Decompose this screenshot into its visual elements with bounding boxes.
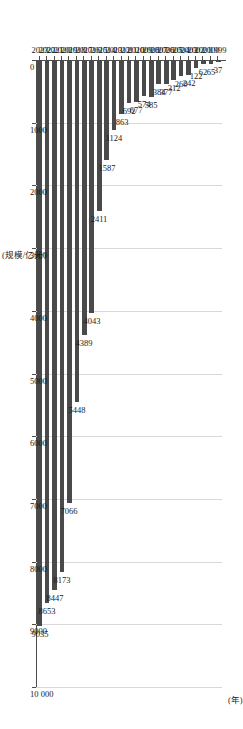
y-axis-tick [61, 56, 62, 60]
bar [60, 60, 65, 572]
y-axis-tick [195, 56, 196, 60]
y-axis-tick [210, 56, 211, 60]
chart-figure: 010002000300040005000600070008000900010 … [0, 0, 234, 729]
y-axis-tick [150, 56, 151, 60]
y-axis-tick [83, 56, 84, 60]
y-axis-tick [91, 56, 92, 60]
bar [179, 60, 184, 76]
y-axis-tick [188, 56, 189, 60]
bar [75, 60, 80, 402]
x-axis-tick-label: 5000 [30, 377, 47, 386]
bar-value-label: 65 [207, 68, 216, 77]
bar-value-label: 2411 [91, 215, 108, 224]
bar-value-label: 384 [152, 88, 165, 97]
bar [201, 60, 206, 64]
y-axis-tick [46, 56, 47, 60]
gridline [36, 687, 222, 688]
bar-value-label: 1587 [98, 164, 115, 173]
bar [171, 60, 176, 80]
plot-area [36, 60, 222, 687]
bar [67, 60, 72, 503]
y-axis-tick [121, 56, 122, 60]
x-axis-tick-label: 7000 [30, 502, 47, 511]
x-axis-tick [32, 60, 36, 61]
bar [82, 60, 87, 335]
x-axis-tick-label: 10 000 [30, 690, 53, 699]
x-axis-tick-label: 8000 [30, 565, 47, 574]
bar-value-label: 9035 [31, 630, 48, 639]
bar-value-label: 8653 [39, 607, 56, 616]
y-axis-tick [202, 56, 203, 60]
y-axis-tick [180, 56, 181, 60]
gridline [36, 624, 222, 625]
x-axis-tick-label: 6000 [30, 439, 47, 448]
x-axis-tick-label: 1000 [30, 126, 47, 135]
x-axis-tick [32, 687, 36, 688]
bar [104, 60, 109, 160]
y-axis-tick [128, 56, 129, 60]
bar [127, 60, 132, 103]
x-axis-tick [32, 562, 36, 563]
x-axis-title: (规模/亿元) [2, 248, 46, 260]
y-axis-tick [39, 56, 40, 60]
bar [156, 60, 161, 84]
bar [90, 60, 95, 313]
bar [52, 60, 57, 590]
y-axis-tick [165, 56, 166, 60]
x-axis-tick [32, 123, 36, 124]
bar-chart: 010002000300040005000600070008000900010 … [0, 0, 234, 729]
x-axis-tick-label: 2000 [30, 188, 47, 197]
y-axis-tick [76, 56, 77, 60]
y-axis-tick [98, 56, 99, 60]
bar [164, 60, 169, 84]
bar-value-label: 37 [214, 66, 223, 75]
y-axis-tick [68, 56, 69, 60]
bar-value-label: 863 [115, 118, 128, 127]
bar [97, 60, 102, 211]
x-axis-tick [32, 499, 36, 500]
bar [134, 60, 139, 102]
x-axis-tick-label: 0 [30, 63, 34, 72]
y-axis-tick [54, 56, 55, 60]
x-axis-tick [32, 374, 36, 375]
bar-value-label: 7066 [61, 507, 78, 516]
y-axis-tick [143, 56, 144, 60]
y-axis-tick [113, 56, 114, 60]
bar [45, 60, 50, 603]
y-axis-tick [217, 56, 218, 60]
bar-value-label: 1124 [106, 134, 123, 143]
y-axis-tick [173, 56, 174, 60]
bar [142, 60, 147, 96]
bar [216, 60, 221, 62]
y-axis-title: (年) [228, 693, 234, 705]
y-axis-tick [158, 56, 159, 60]
bar-value-label: 8447 [46, 594, 63, 603]
bar-value-label: 4043 [83, 317, 100, 326]
bar-value-label: 8173 [54, 576, 71, 585]
bar [194, 60, 199, 68]
bar [37, 60, 42, 626]
bar-value-label: 692 [123, 107, 136, 116]
y-axis-tick-label: 2023 [31, 46, 48, 55]
bar-value-label: 5448 [68, 406, 85, 415]
bar [209, 60, 214, 64]
bar-value-label: 4389 [76, 339, 93, 348]
y-axis-tick [106, 56, 107, 60]
x-axis-tick-label: 4000 [30, 314, 47, 323]
y-axis-tick [135, 56, 136, 60]
x-axis-tick [32, 311, 36, 312]
